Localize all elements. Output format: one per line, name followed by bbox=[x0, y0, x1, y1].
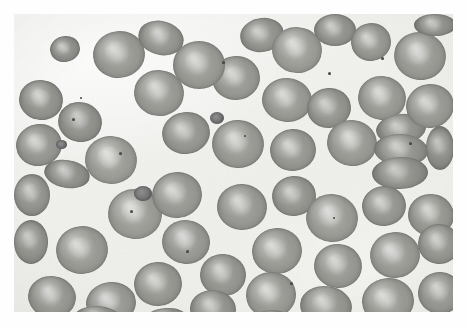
debris-speck bbox=[244, 135, 246, 137]
platelet bbox=[210, 112, 224, 124]
cell-membrane-rim bbox=[14, 174, 50, 216]
debris-speck bbox=[409, 142, 412, 145]
debris-speck bbox=[130, 210, 133, 213]
debris-speck bbox=[72, 118, 75, 121]
screenshot-root bbox=[0, 0, 467, 329]
cell-membrane-rim bbox=[414, 14, 453, 36]
debris-speck bbox=[80, 97, 82, 99]
platelet bbox=[56, 140, 67, 149]
debris-speck bbox=[119, 152, 122, 155]
blood-smear-micrograph bbox=[14, 14, 453, 312]
red-blood-cell bbox=[414, 14, 453, 36]
debris-speck bbox=[328, 72, 331, 75]
debris-speck bbox=[381, 57, 384, 60]
red-blood-cell bbox=[14, 220, 48, 264]
debris-speck bbox=[186, 250, 189, 253]
red-blood-cell bbox=[14, 174, 50, 216]
cell-membrane-rim bbox=[14, 220, 48, 264]
cell-membrane-rim bbox=[426, 126, 453, 170]
platelet bbox=[134, 186, 152, 201]
debris-speck bbox=[290, 282, 293, 285]
debris-speck bbox=[333, 217, 335, 219]
red-blood-cell bbox=[426, 126, 453, 170]
debris-speck bbox=[222, 61, 225, 64]
